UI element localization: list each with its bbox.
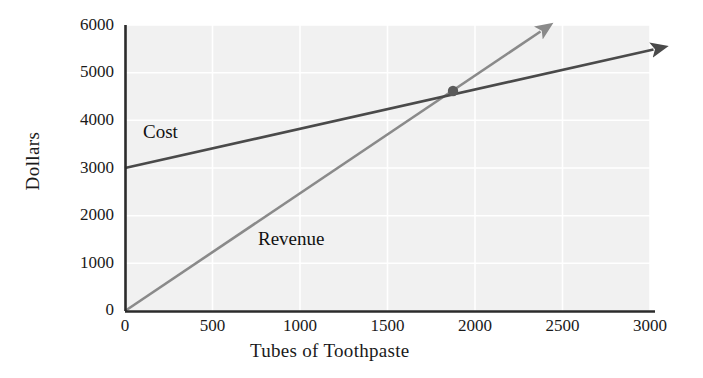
revenue-series-label: Revenue <box>258 228 324 250</box>
x-tick-label: 1000 <box>270 316 330 336</box>
x-axis-title: Tubes of Toothpaste <box>250 340 410 362</box>
y-tick-label: 2000 <box>52 205 114 225</box>
x-tick-label: 3000 <box>620 316 680 336</box>
y-tick-label: 6000 <box>52 15 114 35</box>
break-even-point <box>448 86 458 96</box>
y-axis-title: Dollars <box>22 106 44 216</box>
x-tick-label: 500 <box>183 316 243 336</box>
x-tick-label: 2000 <box>445 316 505 336</box>
y-tick-label: 3000 <box>52 158 114 178</box>
y-tick-label: 1000 <box>52 253 114 273</box>
x-tick-label: 2500 <box>533 316 593 336</box>
x-tick-label: 0 <box>95 316 155 336</box>
chart-figure: 6000 5000 4000 3000 2000 1000 0 0 500 10… <box>0 0 703 378</box>
y-tick-label: 4000 <box>52 110 114 130</box>
y-tick-label: 5000 <box>52 62 114 82</box>
cost-series-label: Cost <box>143 121 178 143</box>
x-tick-label: 1500 <box>358 316 418 336</box>
